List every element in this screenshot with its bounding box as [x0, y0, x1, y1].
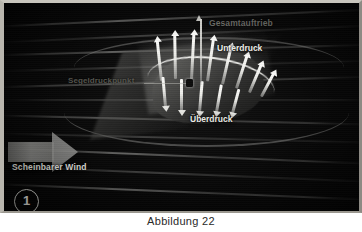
label-total-lift: Gesamtauftrieb	[209, 18, 273, 28]
figure-panel: Gesamtauftrieb Unterdruck Überdruck Sege…	[0, 0, 362, 213]
diagram-plate: Gesamtauftrieb Unterdruck Überdruck Sege…	[4, 3, 359, 211]
center-of-effort-marker	[186, 79, 193, 87]
label-sail-center-of-effort: Segeldruckpunkt	[68, 76, 134, 85]
figure-page: Gesamtauftrieb Unterdruck Überdruck Sege…	[0, 0, 362, 232]
sail-cross-section	[108, 29, 308, 149]
pressure-arrow-low	[173, 35, 174, 79]
streamline	[4, 9, 359, 28]
streamline	[4, 183, 359, 201]
total-lift-line	[200, 19, 202, 85]
figure-caption: Abbildung 22	[0, 215, 362, 227]
center-of-effort-leader-line	[144, 83, 188, 84]
label-low-pressure: Unterdruck	[217, 43, 262, 53]
label-apparent-wind: Scheinbarer Wind	[12, 162, 87, 172]
label-high-pressure: Überdruck	[190, 114, 233, 124]
circled-number-icon: 1	[14, 189, 39, 211]
arrow-up-icon	[196, 15, 202, 21]
